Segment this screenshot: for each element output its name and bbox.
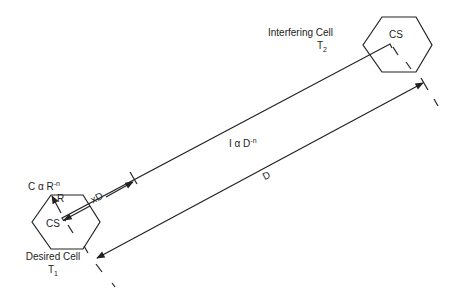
- distance-arrow: [97, 83, 423, 258]
- cochannel-interference-diagram: C α R-n R CS xD Desired Cell T1 Interfer…: [0, 0, 461, 304]
- distance-tick-right-ext: [434, 99, 438, 106]
- distance-tick-left-2: [96, 264, 102, 272]
- xd-arrow-right: [106, 182, 133, 197]
- desired-tx-label: T1: [22, 265, 84, 277]
- desired-cs-label: CS: [46, 219, 60, 229]
- interfering-cell-title: Interfering Cell: [268, 28, 333, 38]
- xd-arrow-left: [64, 206, 90, 220]
- distance-tick-left: [84, 246, 88, 253]
- radius-label: R: [57, 194, 64, 204]
- distance-tick-left-3: [112, 283, 115, 287]
- xd-end-tick: [130, 172, 137, 184]
- interfering-cs-tick: [393, 47, 398, 55]
- interfering-cs-label: CS: [389, 30, 403, 40]
- carrier-formula: C α R-n: [28, 180, 60, 192]
- interfering-cell-hexagon: [363, 17, 432, 72]
- desired-cell-title: Desired Cell: [22, 252, 84, 262]
- interfering-tx-label: T2: [310, 41, 334, 53]
- desired-cs-tick: [68, 225, 73, 233]
- interfering-cell-tick: [406, 62, 411, 69]
- interference-formula: I α D-n: [229, 137, 257, 149]
